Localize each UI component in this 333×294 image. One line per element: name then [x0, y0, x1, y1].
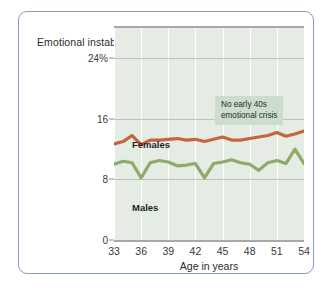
series-label-females: Females	[132, 139, 170, 150]
annotation-no-midlife-crisis: No early 40s emotional crisis	[215, 96, 283, 125]
x-axis-title: Age in years	[114, 260, 304, 272]
y-tick-mark	[109, 240, 114, 241]
y-tick-mark	[109, 58, 114, 59]
x-tick-label: 51	[271, 245, 283, 257]
y-tick-mark	[109, 118, 114, 119]
x-tick-label: 45	[217, 245, 229, 257]
x-tick-label: 42	[190, 245, 202, 257]
x-tick-label: 54	[298, 245, 310, 257]
x-tick-label: 48	[244, 245, 256, 257]
x-tick-label: 36	[135, 245, 147, 257]
x-tick-label: 33	[108, 245, 120, 257]
gridline-vertical	[304, 28, 305, 240]
y-tick-label: 24%	[88, 53, 108, 64]
series-label-males: Males	[132, 202, 158, 213]
y-tick-label: 16	[97, 113, 108, 124]
figure-panel: Emotional instability 081624% 3336394245…	[18, 11, 314, 274]
y-tick-label: 0	[102, 235, 108, 246]
y-tick-mark	[109, 179, 114, 180]
x-tick-label: 39	[162, 245, 174, 257]
series-line-males	[114, 149, 304, 178]
y-tick-label: 8	[102, 174, 108, 185]
